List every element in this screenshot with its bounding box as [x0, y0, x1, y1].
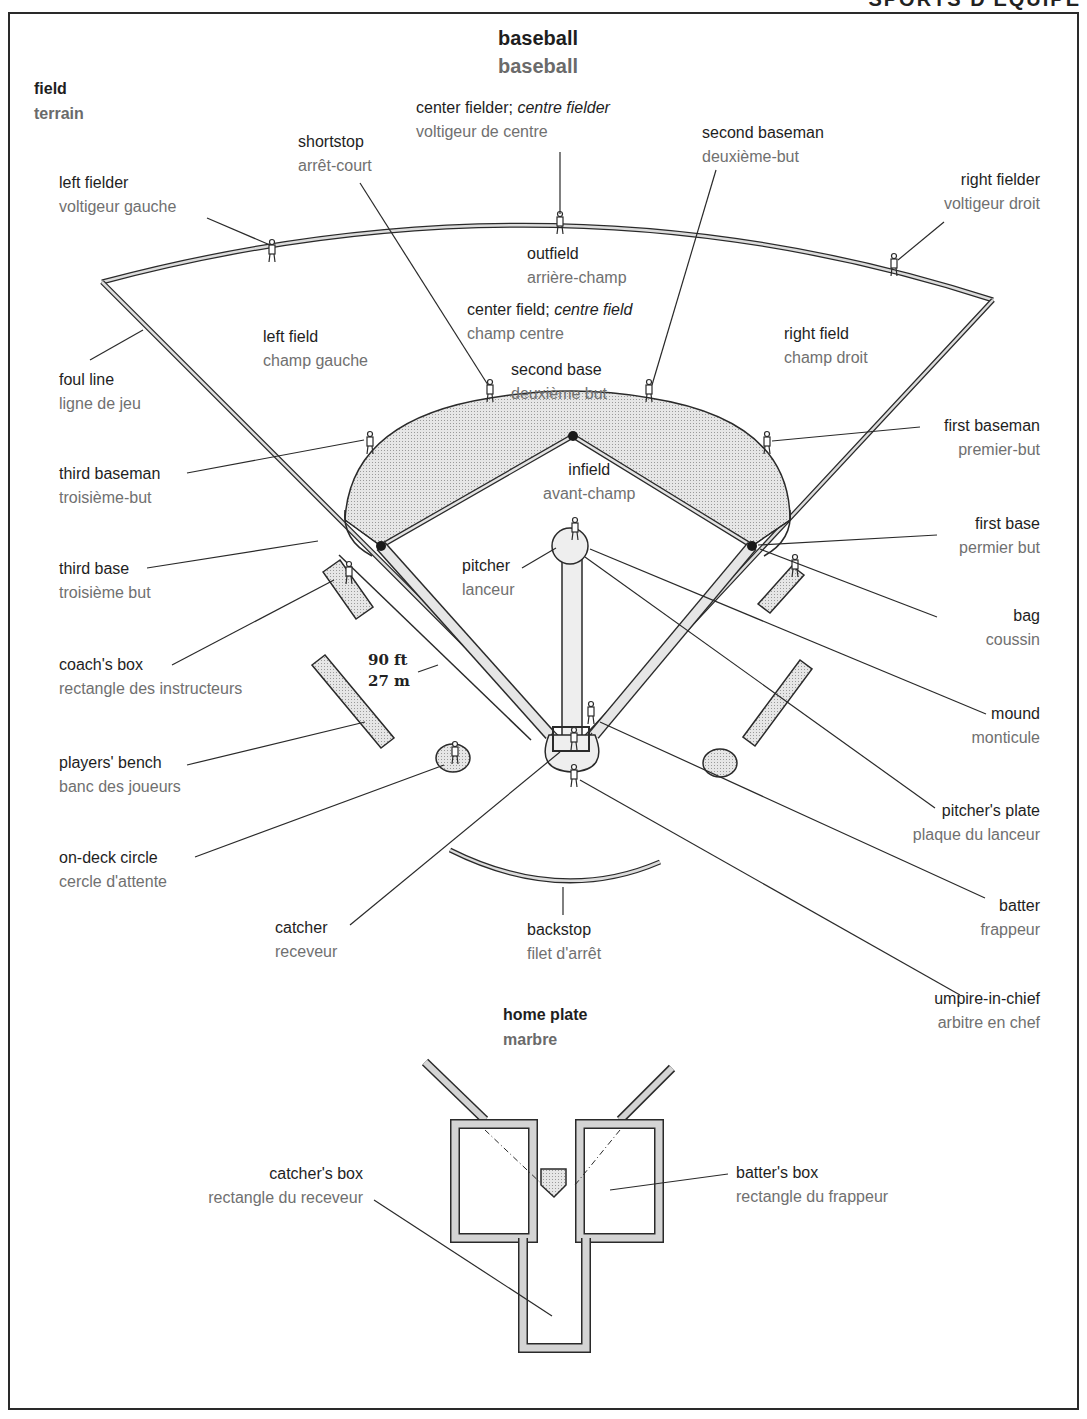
label-batters-box: batter's box rectangle du frappeur	[736, 1161, 888, 1209]
label-right-field: right field champ droit	[784, 322, 868, 370]
label-third-baseman: third baseman troisième-but	[59, 462, 160, 510]
label-bag: bag coussin	[986, 604, 1040, 652]
label-players-bench: players' bench banc des joueurs	[59, 751, 181, 799]
label-first-baseman: first baseman premier-but	[944, 414, 1040, 462]
label-mound: mound monticule	[972, 702, 1040, 750]
label-third-base: third base troisième but	[59, 557, 151, 605]
section-home-plate: home plate marbre	[503, 1002, 587, 1052]
label-on-deck-circle: on-deck circle cercle d'attente	[59, 846, 167, 894]
label-pitcher: pitcher lanceur	[462, 554, 514, 602]
label-catchers-box: catcher's box rectangle du receveur	[208, 1162, 363, 1210]
label-center-field: center field; centre field champ centre	[467, 298, 632, 346]
label-left-field: left field champ gauche	[263, 325, 368, 373]
label-foul-line: foul line ligne de jeu	[59, 368, 141, 416]
label-left-fielder: left fielder voltigeur gauche	[59, 171, 176, 219]
baseline-distance: 90 ft 27 m	[368, 650, 410, 692]
label-center-fielder: center fielder; centre fielder voltigeur…	[416, 96, 610, 144]
section-field: field terrain	[34, 76, 84, 126]
label-infield: infield avant-champ	[543, 458, 636, 506]
label-second-base: second base deuxième but	[511, 358, 607, 406]
label-backstop: backstop filet d'arrêt	[527, 918, 601, 966]
label-shortstop: shortstop arrêt-court	[298, 130, 372, 178]
label-first-base: first base permier but	[959, 512, 1040, 560]
label-second-baseman: second baseman deuxième-but	[702, 121, 824, 169]
label-pitchers-plate: pitcher's plate plaque du lanceur	[913, 799, 1040, 847]
label-outfield: outfield arrière-champ	[527, 242, 627, 290]
page-title: baseball baseball	[498, 24, 578, 80]
label-catcher: catcher receveur	[275, 916, 337, 964]
label-coachs-box: coach's box rectangle des instructeurs	[59, 653, 242, 701]
label-right-fielder: right fielder voltigeur droit	[944, 168, 1040, 216]
home-plate-detail	[374, 1062, 728, 1348]
label-batter: batter frappeur	[980, 894, 1040, 942]
label-umpire-in-chief: umpire-in-chief arbitre en chef	[934, 987, 1040, 1035]
